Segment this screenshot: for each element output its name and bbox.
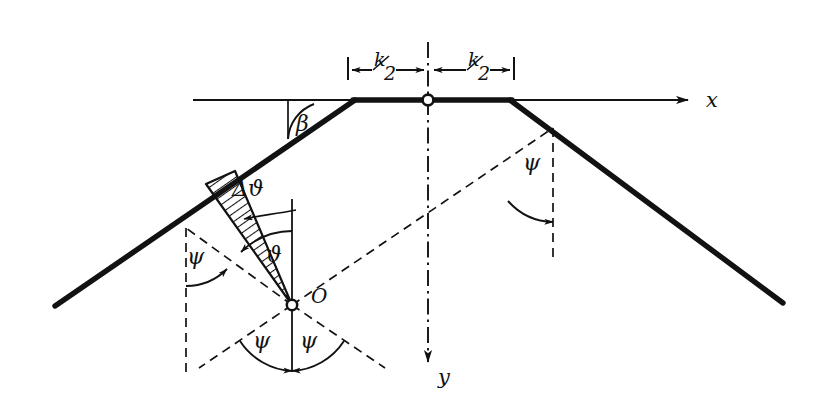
dim-left-denominator: 2 <box>383 62 396 84</box>
psi-right-label: ψ <box>523 150 541 175</box>
dim-right-denominator: 2 <box>477 62 490 84</box>
ray-lower-left-dashed <box>199 305 292 368</box>
psi-bottom-left-label: ψ <box>253 328 271 353</box>
beta-label: β <box>295 111 309 136</box>
origin-point-node <box>287 300 297 310</box>
delta-theta-label: Δϑ <box>231 176 264 201</box>
y-axis-label: y <box>437 365 451 389</box>
slope-geometry-diagram: x y <box>0 0 821 410</box>
psi-right-arc <box>508 201 553 222</box>
psi-left-label: ψ <box>187 244 205 269</box>
dimension-label-left: k 2 <box>373 48 396 84</box>
ray-upper-right-dashed <box>292 128 553 305</box>
x-axis-label: x <box>706 88 718 112</box>
left-slope-line <box>55 100 355 306</box>
origin-point-label: O <box>311 284 327 308</box>
dimension-label-right: k 2 <box>467 48 490 84</box>
psi-bottom-right-label: ψ <box>300 328 318 353</box>
right-slope-line <box>510 100 783 303</box>
psi-left-arc <box>186 269 227 286</box>
construction-rays-group <box>186 128 553 372</box>
psi-left-group: ψ <box>186 244 227 286</box>
y-axis-group: y <box>428 42 451 389</box>
dimension-group: k 2 k 2 <box>348 48 514 84</box>
crest-origin-node <box>423 95 434 106</box>
theta-label: ϑ <box>266 242 282 267</box>
ground-profile-group <box>55 100 783 306</box>
figure-root: x y <box>0 0 821 410</box>
psi-right-group: ψ <box>508 150 553 222</box>
